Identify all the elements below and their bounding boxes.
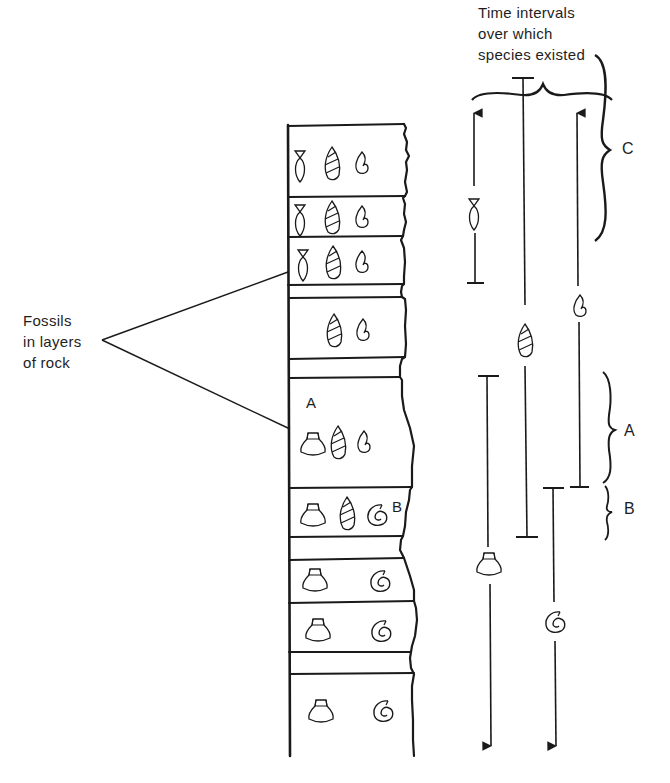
scallop-fossil-icon [306, 619, 331, 641]
layer-2-fossils [295, 201, 368, 236]
title-brace [472, 84, 612, 100]
fish-fossil-icon [295, 151, 305, 182]
fossil-succession-diagram [0, 0, 670, 783]
hook-shell-fossil-icon [356, 206, 368, 227]
layer-5-fossils [301, 426, 370, 459]
brace-a [603, 372, 615, 483]
spiral-snail-fossil-icon [326, 246, 341, 279]
hook-shell-fossil-icon [358, 431, 370, 452]
layer-9-fossils [309, 700, 393, 722]
ammonite-fossil-icon [368, 505, 387, 525]
scallop-range-icon [477, 553, 502, 575]
hook-shell-fossil-icon [357, 319, 369, 340]
spiral-snail-fossil-icon [327, 314, 342, 347]
ammonite-fossil-icon [374, 701, 393, 721]
scallop-fossil-icon [309, 700, 334, 722]
scallop-fossil-icon [303, 569, 328, 591]
spiral-snail-range-icon [518, 324, 533, 357]
hook-shell-range-bar [570, 113, 589, 487]
hook-shell-fossil-icon [356, 152, 368, 173]
callout-lines [102, 272, 290, 429]
spiral-snail-fossil-icon [331, 426, 346, 459]
layer-7-fossils [303, 569, 390, 591]
scallop-fossil-icon [301, 433, 326, 455]
layer-8-fossils [306, 619, 391, 641]
layer-4-fossils [327, 314, 369, 347]
fish-range-bar [467, 113, 484, 283]
scallop-fossil-icon [301, 504, 326, 526]
spiral-snail-fossil-icon [325, 201, 340, 234]
fish-fossil-icon [295, 205, 305, 236]
hook-shell-range-icon [574, 295, 586, 316]
brace-b [605, 486, 612, 540]
spiral-snail-fossil-icon [325, 147, 340, 180]
hook-shell-fossil-icon [356, 251, 368, 272]
fish-fossil-icon [298, 250, 308, 281]
spiral-snail-fossil-icon [340, 497, 355, 530]
layer-6-fossils [301, 497, 387, 530]
brace-c [595, 55, 610, 241]
ammonite-range-icon [546, 612, 565, 632]
layer-3-fossils [298, 246, 368, 281]
fish-range-icon [469, 199, 479, 230]
layer-1-fossils [295, 147, 368, 182]
ammonite-fossil-icon [372, 621, 391, 641]
spiral-snail-range-bar [512, 78, 538, 537]
ammonite-range-bar [543, 488, 564, 746]
rock-column [288, 124, 417, 756]
ammonite-fossil-icon [371, 571, 390, 591]
